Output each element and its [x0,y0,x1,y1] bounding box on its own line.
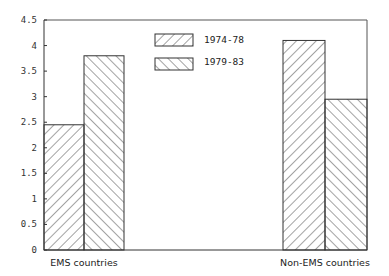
category-label: EMS countries [50,257,117,268]
legend-swatch-forward-hatch [155,34,193,46]
bars [44,40,367,250]
y-tick-label: 2.5 [21,117,37,127]
bar-ems-1979-83 [84,56,124,250]
legend-swatch-backward-hatch [155,58,193,70]
y-tick-label: 4 [32,41,37,51]
bar-ems-1974-78 [44,125,84,250]
bar-non-ems-1974-78 [283,40,325,250]
y-tick-label: 4.5 [21,15,37,25]
y-tick-label: 0 [32,245,37,255]
y-tick-label: 3 [32,92,37,102]
category-labels: EMS countriesNon-EMS countries [50,257,370,268]
legend-label: 1979-83 [204,56,244,67]
y-tick-label: 0.5 [21,219,37,229]
legend-item-1979-83: 1979-83 [155,56,244,70]
y-tick-label: 2 [32,143,37,153]
legend: 1974-78 1979-83 [155,34,244,70]
y-tick-label: 1 [32,194,37,204]
legend-label: 1974-78 [204,34,244,45]
legend-item-1974-78: 1974-78 [155,34,244,46]
bar-chart: 00.511.522.533.544.5 EMS countriesNon-EM… [0,0,389,276]
y-tick-label: 1.5 [21,168,37,178]
bar-non-ems-1979-83 [325,99,367,250]
category-label: Non-EMS countries [280,257,370,268]
y-axis-ticks: 00.511.522.533.544.5 [21,15,47,255]
y-tick-label: 3.5 [21,66,37,76]
